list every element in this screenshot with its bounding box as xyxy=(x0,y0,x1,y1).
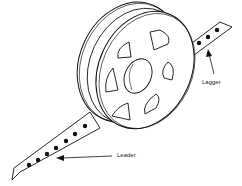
lagger-arrow xyxy=(206,49,214,74)
reel-diagram xyxy=(0,0,242,186)
lagger-label: Lagger xyxy=(202,79,221,85)
leader-strip xyxy=(12,112,100,180)
leader-arrow xyxy=(56,155,112,161)
leader-label: Leader xyxy=(117,152,136,158)
